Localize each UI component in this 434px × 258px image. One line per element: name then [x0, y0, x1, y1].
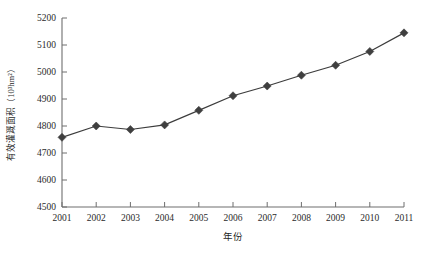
data-point-marker	[400, 29, 408, 37]
x-tick-label: 2003	[121, 213, 140, 223]
data-point-marker	[332, 61, 340, 69]
x-tick-label: 2010	[360, 213, 379, 223]
y-tick-label: 5200	[37, 13, 56, 23]
line-chart: 45004600470048004900500051005200 2001200…	[0, 0, 434, 258]
y-tick-label: 4500	[37, 202, 56, 212]
y-axis: 45004600470048004900500051005200	[37, 13, 67, 212]
x-axis-title: 年份	[223, 231, 243, 242]
chart-container: 45004600470048004900500051005200 2001200…	[0, 0, 434, 258]
x-tick-label: 2005	[189, 213, 208, 223]
x-tick-label: 2004	[155, 213, 174, 223]
data-point-marker	[195, 106, 203, 114]
y-tick-label: 4600	[37, 175, 56, 185]
data-series	[58, 29, 408, 141]
x-tick-label: 2011	[395, 213, 414, 223]
x-tick-label: 2007	[258, 213, 277, 223]
data-point-marker	[92, 122, 100, 130]
y-axis-title: 有效灌溉面积（10³hm²）	[5, 64, 16, 161]
data-point-marker	[297, 71, 305, 79]
x-tick-label: 2006	[224, 213, 243, 223]
x-axis: 2001200220032004200520062007200820092010…	[53, 202, 414, 223]
data-point-marker	[263, 82, 271, 90]
y-tick-label: 5000	[37, 67, 56, 77]
y-tick-label: 5100	[37, 40, 56, 50]
y-tick-label: 4800	[37, 121, 56, 131]
x-tick-label: 2002	[87, 213, 106, 223]
data-point-marker	[161, 121, 169, 129]
x-tick-label: 2001	[53, 213, 72, 223]
data-point-marker	[366, 47, 374, 55]
x-tick-label: 2008	[292, 213, 311, 223]
y-tick-label: 4900	[37, 94, 56, 104]
y-tick-label: 4700	[37, 148, 56, 158]
x-tick-label: 2009	[326, 213, 345, 223]
data-point-marker	[58, 133, 66, 141]
data-point-marker	[229, 92, 237, 100]
data-point-marker	[126, 126, 134, 134]
